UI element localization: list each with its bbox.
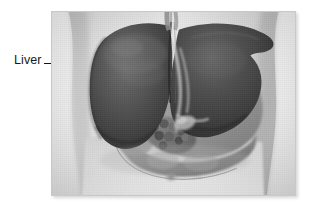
liver-figure: Liver bbox=[0, 0, 309, 211]
anatomy-image-frame bbox=[51, 11, 296, 196]
anatomy-image bbox=[52, 12, 295, 195]
anatomy-illustration bbox=[52, 12, 295, 195]
liver-label-text: Liver bbox=[14, 52, 42, 68]
organ-contact-shadow bbox=[100, 145, 251, 177]
